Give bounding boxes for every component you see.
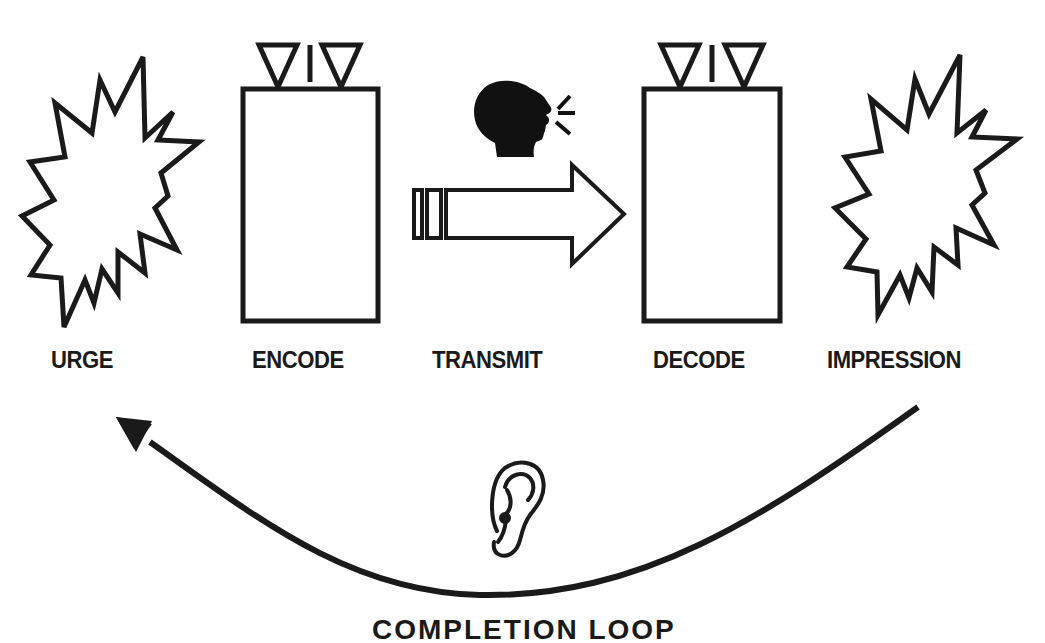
speaking-head-icon [474,81,575,157]
stage-label-impression: IMPRESSION [827,346,961,374]
completion-loop-label: COMPLETION LOOP [372,614,676,643]
impression-starburst-icon [835,55,1017,315]
stage-label-urge: URGE [51,346,113,374]
transmit-arrow-icon [414,165,624,264]
ear-icon [492,463,544,556]
stage-label-decode: DECODE [653,346,745,374]
encode-box-icon [243,45,378,321]
decode-box-icon [644,45,780,321]
completion-loop-arrow [116,407,918,595]
stage-label-encode: ENCODE [252,346,344,374]
stage-label-transmit: TRANSMIT [432,346,542,374]
urge-starburst-icon [22,57,199,327]
